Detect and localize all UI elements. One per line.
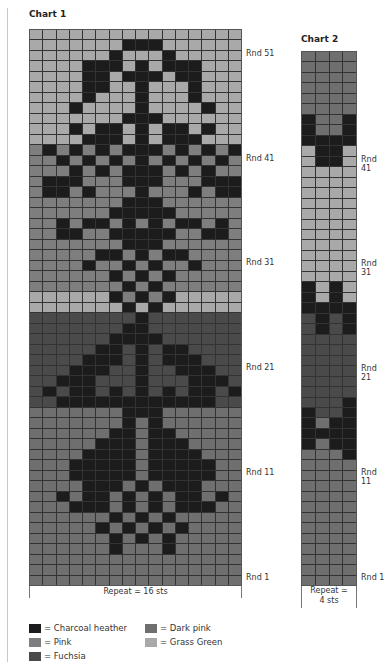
chart-cell <box>110 292 122 302</box>
chart-cell <box>216 481 228 490</box>
chart-cell <box>302 52 315 61</box>
chart-cell <box>216 544 228 553</box>
chart-cell <box>149 72 161 81</box>
chart-cell <box>216 513 228 522</box>
chart-cell <box>229 303 241 312</box>
chart-cell <box>176 313 188 323</box>
chart-cell <box>189 114 201 123</box>
chart-cell <box>43 282 55 291</box>
chart-cell <box>83 387 95 396</box>
chart-cell <box>30 408 42 417</box>
chart-cell <box>216 229 228 238</box>
chart-cell <box>202 481 214 490</box>
chart-cell <box>189 219 201 228</box>
chart-cell <box>96 250 108 259</box>
chart-cell <box>176 72 188 81</box>
chart-cell <box>136 30 148 39</box>
chart-cell <box>202 576 214 586</box>
chart-cell <box>330 356 343 365</box>
round-label: Rnd 11 <box>361 468 389 486</box>
chart-cell <box>176 93 188 102</box>
chart-cell <box>343 136 356 145</box>
chart-cell <box>96 555 108 565</box>
chart-cell <box>316 502 329 511</box>
chart-cell <box>163 429 175 438</box>
chart-cell <box>70 156 82 166</box>
chart-cell <box>30 271 42 280</box>
chart-cell <box>189 492 201 501</box>
chart-cell <box>70 408 82 417</box>
chart-cell <box>202 439 214 448</box>
chart-cell <box>43 177 55 186</box>
chart-cell <box>176 355 188 364</box>
chart-cell <box>216 397 228 407</box>
chart-cell <box>83 408 95 417</box>
chart-cell <box>30 261 42 271</box>
chart-cell <box>216 145 228 154</box>
chart-cell <box>149 208 161 218</box>
chart2-repeat-label: Repeat = 4 sts <box>301 586 357 608</box>
chart-cell <box>110 208 122 218</box>
chart-cell <box>43 481 55 490</box>
chart-cell <box>123 82 135 92</box>
chart-cell <box>110 30 122 39</box>
chart-cell <box>302 83 315 92</box>
chart-cell <box>57 261 69 271</box>
chart-cell <box>343 356 356 365</box>
chart-cell <box>83 366 95 376</box>
chart-cell <box>43 145 55 154</box>
chart-cell <box>43 103 55 113</box>
chart-cell <box>149 156 161 166</box>
chart-cell <box>163 177 175 186</box>
chart-cell <box>43 324 55 333</box>
chart-cell <box>302 534 315 543</box>
chart-cell <box>202 544 214 553</box>
chart-cell <box>136 355 148 364</box>
charcoal-heather-swatch <box>29 624 41 633</box>
chart-cell <box>43 135 55 145</box>
chart-cell <box>176 208 188 218</box>
chart-cell <box>83 208 95 218</box>
chart-cell <box>83 355 95 364</box>
chart-cell <box>343 314 356 323</box>
chart-cell <box>229 324 241 333</box>
chart-cell <box>149 30 161 39</box>
chart-cell <box>229 576 241 586</box>
chart-cell <box>123 460 135 469</box>
chart-cell <box>43 576 55 586</box>
legend-item-fuchsia: = Fuchsia <box>29 651 86 661</box>
chart-cell <box>163 481 175 490</box>
chart-cell <box>330 282 343 291</box>
round-label: Rnd 21 <box>246 363 274 372</box>
chart-cell <box>163 114 175 123</box>
chart2-repeat-text-1: Repeat = <box>302 586 356 596</box>
chart-cell <box>229 387 241 396</box>
chart-cell <box>57 219 69 228</box>
chart-cell <box>83 460 95 469</box>
chart-cell <box>43 534 55 543</box>
chart-cell <box>149 471 161 481</box>
chart-cell <box>216 261 228 271</box>
chart-cell <box>330 157 343 166</box>
chart-cell <box>330 335 343 344</box>
chart-cell <box>163 124 175 133</box>
grass-green-swatch <box>145 638 157 647</box>
chart-cell <box>330 73 343 82</box>
chart-cell <box>96 397 108 407</box>
chart-cell <box>123 240 135 250</box>
chart-cell <box>176 124 188 133</box>
chart-cell <box>110 408 122 417</box>
chart-cell <box>57 292 69 302</box>
chart-cell <box>176 282 188 291</box>
chart-cell <box>202 177 214 186</box>
chart-cell <box>316 398 329 407</box>
chart-cell <box>70 418 82 428</box>
chart-cell <box>123 93 135 102</box>
chart-cell <box>302 387 315 396</box>
chart-cell <box>57 334 69 343</box>
chart-cell <box>149 429 161 438</box>
chart-cell <box>343 188 356 197</box>
chart-cell <box>302 157 315 166</box>
chart-cell <box>96 61 108 70</box>
chart-cell <box>176 40 188 49</box>
